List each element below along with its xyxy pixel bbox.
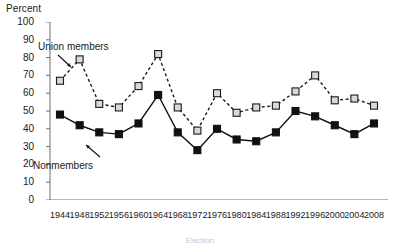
annotation-union-members: Union members — [38, 41, 109, 52]
x-tick-label: 2008 — [359, 210, 389, 220]
y-tick-label: 40 — [0, 123, 34, 134]
y-tick-label: 50 — [0, 105, 34, 116]
y-tick-label: 60 — [0, 87, 34, 98]
y-tick-label: 100 — [0, 16, 34, 27]
chart-figure: Percent 0102030405060708090100 194419481… — [0, 0, 400, 248]
annotation-nonmembers: Nonmembers — [33, 160, 93, 171]
y-tick-label: 80 — [0, 52, 34, 63]
y-axis-title: Percent — [6, 3, 41, 14]
y-tick-label: 20 — [0, 158, 34, 169]
x-axis-caption: Election — [0, 236, 400, 245]
y-tick-label: 10 — [0, 176, 34, 187]
y-tick-label: 70 — [0, 69, 34, 80]
y-tick-label: 0 — [0, 194, 34, 205]
y-tick-label: 90 — [0, 34, 34, 45]
y-tick-label: 30 — [0, 141, 34, 152]
